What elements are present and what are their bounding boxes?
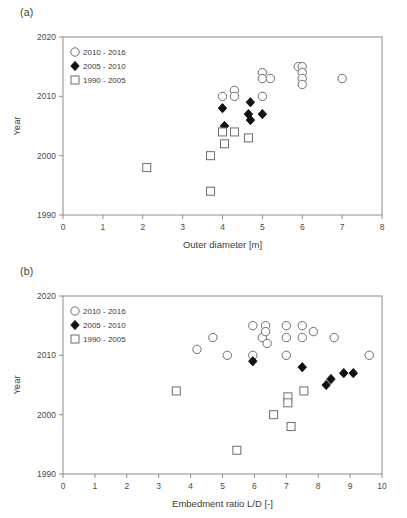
- series-1: [218, 62, 346, 100]
- x-tick-label: 8: [380, 222, 385, 232]
- data-point: [233, 446, 241, 454]
- data-point: [219, 128, 227, 136]
- data-point: [244, 134, 252, 142]
- data-point: [266, 74, 274, 82]
- panel-b-label: (b): [20, 265, 33, 277]
- data-point: [246, 98, 254, 107]
- data-point: [143, 164, 151, 172]
- panel-b-plot: 0123456789101990200020102020Embedment ra…: [0, 259, 407, 518]
- data-point: [223, 351, 231, 359]
- data-point: [349, 369, 357, 378]
- panel-a-label: (a): [20, 6, 33, 18]
- y-axis-title: Year: [11, 375, 22, 394]
- data-point: [230, 92, 238, 100]
- series-2: [218, 98, 266, 131]
- data-point: [172, 387, 180, 395]
- legend-label: 2005 - 2010: [83, 321, 126, 330]
- data-point: [298, 321, 306, 329]
- series-1: [193, 321, 374, 359]
- legend-label: 2010 - 2016: [83, 48, 126, 57]
- data-point: [207, 152, 215, 160]
- legend: 2010 - 20162005 - 20101990 - 2005: [71, 307, 126, 344]
- x-tick-label: 4: [220, 222, 225, 232]
- figure-container: (a) 0123456781990200020102020Outer diame…: [0, 0, 407, 518]
- legend-marker: [71, 76, 79, 84]
- panel-a-plot: 0123456781990200020102020Outer diameter …: [0, 0, 407, 259]
- y-axis-title: Year: [11, 116, 22, 135]
- x-tick-label: 9: [348, 481, 353, 491]
- x-tick-label: 2: [140, 222, 145, 232]
- data-point: [282, 333, 290, 341]
- data-point: [261, 327, 269, 335]
- data-point: [330, 333, 338, 341]
- data-point: [258, 92, 266, 100]
- data-point: [309, 327, 317, 335]
- y-tick-label: 2020: [37, 32, 56, 42]
- x-tick-label: 6: [300, 222, 305, 232]
- data-point: [340, 369, 348, 378]
- data-point: [207, 187, 215, 195]
- legend-label: 2005 - 2010: [83, 62, 126, 71]
- data-point: [284, 399, 292, 407]
- x-axis-title: Embedment ratio L/D [-]: [172, 498, 273, 509]
- data-point: [209, 333, 217, 341]
- data-point: [338, 74, 346, 82]
- data-point: [287, 423, 295, 431]
- y-tick-label: 2010: [37, 350, 56, 360]
- x-tick-label: 5: [220, 481, 225, 491]
- data-point: [270, 411, 278, 419]
- x-tick-label: 0: [61, 222, 66, 232]
- legend-marker: [71, 320, 79, 329]
- x-axis-title: Outer diameter [m]: [183, 239, 262, 250]
- data-point: [258, 74, 266, 82]
- data-point: [300, 387, 308, 395]
- data-point: [220, 140, 228, 148]
- y-tick-label: 2010: [37, 91, 56, 101]
- legend-label: 2010 - 2016: [83, 307, 126, 316]
- data-point: [282, 351, 290, 359]
- data-point: [218, 92, 226, 100]
- y-tick-label: 2020: [37, 291, 56, 301]
- series-3: [172, 387, 308, 454]
- data-point: [298, 80, 306, 88]
- legend-marker: [71, 48, 79, 56]
- x-tick-label: 0: [61, 481, 66, 491]
- legend-label: 1990 - 2005: [83, 76, 126, 85]
- series-3: [143, 128, 253, 195]
- y-tick-label: 2000: [37, 151, 56, 161]
- legend-marker: [71, 61, 79, 70]
- data-point: [230, 128, 238, 136]
- x-tick-label: 8: [316, 481, 321, 491]
- x-tick-label: 4: [188, 481, 193, 491]
- data-point: [258, 110, 266, 119]
- x-tick-label: 3: [180, 222, 185, 232]
- x-tick-label: 3: [156, 481, 161, 491]
- x-tick-label: 6: [252, 481, 257, 491]
- data-point: [365, 351, 373, 359]
- legend: 2010 - 20162005 - 20101990 - 2005: [71, 48, 126, 85]
- x-tick-label: 1: [101, 222, 106, 232]
- y-tick-label: 1990: [37, 210, 56, 220]
- x-tick-label: 10: [377, 481, 387, 491]
- x-tick-label: 5: [260, 222, 265, 232]
- panel-b: (b) 0123456789101990200020102020Embedmen…: [0, 259, 407, 518]
- data-point: [263, 339, 271, 347]
- x-tick-label: 7: [340, 222, 345, 232]
- series-2: [249, 357, 358, 390]
- legend-label: 1990 - 2005: [83, 335, 126, 344]
- x-tick-label: 7: [284, 481, 289, 491]
- x-tick-label: 1: [93, 481, 98, 491]
- y-tick-label: 1990: [37, 469, 56, 479]
- legend-marker: [71, 307, 79, 315]
- x-tick-label: 2: [124, 481, 129, 491]
- data-point: [298, 333, 306, 341]
- data-point: [193, 345, 201, 353]
- panel-a: (a) 0123456781990200020102020Outer diame…: [0, 0, 407, 259]
- legend-marker: [71, 335, 79, 343]
- y-tick-label: 2000: [37, 410, 56, 420]
- data-point: [249, 321, 257, 329]
- data-point: [282, 321, 290, 329]
- data-point: [298, 363, 306, 372]
- data-point: [218, 104, 226, 113]
